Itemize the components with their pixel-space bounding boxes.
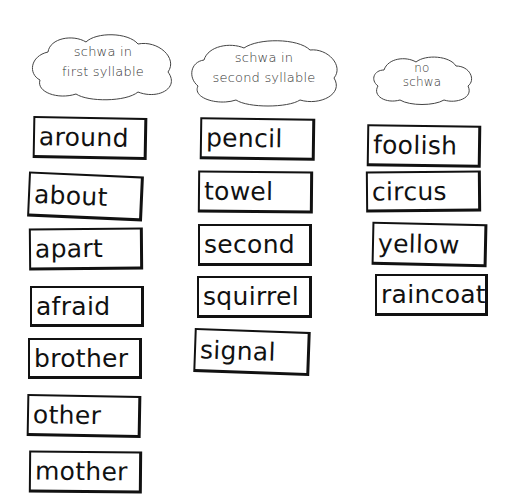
word-card[interactable]: raincoat bbox=[375, 274, 488, 316]
word-card-label: other bbox=[33, 400, 102, 430]
word-card[interactable]: signal bbox=[193, 328, 310, 376]
word-card-label: pencil bbox=[206, 123, 283, 153]
word-card[interactable]: brother bbox=[28, 338, 142, 379]
word-card-label: towel bbox=[204, 177, 274, 207]
word-card[interactable]: yellow bbox=[372, 222, 488, 267]
word-card-label: second bbox=[204, 230, 295, 259]
word-card[interactable]: mother bbox=[29, 451, 142, 494]
word-card[interactable]: around bbox=[33, 116, 148, 160]
category-label-line1: no bbox=[372, 62, 472, 75]
word-card[interactable]: pencil bbox=[200, 117, 316, 161]
category-header-schwa-first-syllable: schwa in first syllable bbox=[28, 30, 178, 98]
word-card[interactable]: other bbox=[27, 394, 142, 438]
word-card[interactable]: about bbox=[27, 172, 144, 222]
category-label-line1: schwa in bbox=[188, 50, 340, 66]
word-card[interactable]: apart bbox=[29, 228, 143, 271]
word-card[interactable]: foolish bbox=[367, 124, 482, 168]
word-card-label: about bbox=[33, 179, 108, 211]
category-header-no-schwa: no schwa bbox=[372, 54, 472, 102]
word-card-label: squirrel bbox=[203, 282, 299, 311]
category-header-schwa-second-syllable: schwa in second syllable bbox=[188, 38, 340, 104]
category-label-line2: first syllable bbox=[28, 64, 178, 80]
word-card-label: foolish bbox=[373, 130, 458, 160]
word-card-label: circus bbox=[372, 176, 447, 206]
word-card-label: around bbox=[39, 122, 129, 153]
word-card-label: raincoat bbox=[381, 280, 486, 309]
word-card-label: yellow bbox=[378, 228, 460, 259]
category-label-line1: schwa in bbox=[28, 44, 178, 60]
word-card[interactable]: afraid bbox=[30, 286, 144, 327]
word-card[interactable]: second bbox=[198, 224, 312, 266]
word-card[interactable]: circus bbox=[366, 170, 481, 212]
category-label-line2: second syllable bbox=[188, 70, 340, 86]
word-card-label: apart bbox=[35, 234, 103, 264]
word-card-label: mother bbox=[35, 457, 128, 487]
category-label-line2: schwa bbox=[372, 75, 472, 89]
word-card[interactable]: squirrel bbox=[197, 276, 312, 318]
word-card[interactable]: towel bbox=[198, 170, 313, 213]
word-card-label: afraid bbox=[36, 292, 110, 321]
word-card-label: brother bbox=[34, 344, 128, 373]
word-card-label: signal bbox=[200, 335, 277, 367]
